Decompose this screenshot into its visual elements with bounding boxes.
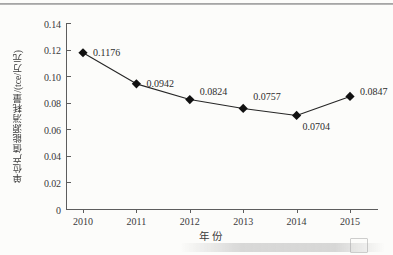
data-point-marker [132, 79, 141, 88]
x-tick-label: 2010 [73, 216, 93, 227]
scan-artifact-box [350, 238, 368, 253]
data-point-label: 0.0824 [200, 85, 228, 96]
x-tick-label: 2012 [180, 216, 200, 227]
y-tick-label: 0 [56, 204, 61, 215]
y-tick-label: 0.04 [44, 151, 61, 162]
plot-area: 00.020.040.060.080.100.120.14 2010201120… [66, 23, 378, 209]
x-tick-mark [350, 209, 351, 213]
page-rule-line [0, 3, 393, 5]
data-point-marker [292, 111, 301, 120]
data-point-label: 0.0847 [360, 86, 388, 97]
x-tick-label: 2013 [233, 216, 253, 227]
y-axis-title: 单位产值能源消耗量/(tce/万元) [13, 50, 27, 183]
y-tick-label: 0.08 [44, 98, 61, 109]
data-point-marker [239, 104, 248, 113]
data-point-label: 0.0757 [253, 91, 281, 102]
x-tick-mark [136, 209, 137, 213]
x-tick-mark [83, 209, 84, 213]
x-tick-label: 2014 [287, 216, 307, 227]
data-point-label: 0.0704 [303, 121, 331, 132]
x-tick-mark [297, 209, 298, 213]
chart-figure: 单位产值能源消耗量/(tce/万元) 00.020.040.060.080.10… [0, 0, 393, 255]
y-tick-mark [67, 209, 71, 210]
x-tick-mark [190, 209, 191, 213]
x-tick-label: 2011 [127, 216, 147, 227]
y-tick-label: 0.02 [44, 177, 61, 188]
x-axis-line [66, 209, 378, 210]
y-tick: 0 [66, 209, 71, 210]
y-tick-label: 0.12 [44, 45, 61, 56]
y-tick-label: 0.06 [44, 124, 61, 135]
x-axis-title: 年 份 [0, 228, 393, 243]
data-point-marker [185, 95, 194, 104]
y-tick-label: 0.14 [44, 18, 61, 29]
data-point-label: 0.0942 [146, 77, 174, 88]
data-point-marker [345, 92, 354, 101]
x-tick-mark [243, 209, 244, 213]
data-point-marker [78, 48, 87, 57]
x-tick-label: 2015 [340, 216, 360, 227]
y-tick-label: 0.10 [44, 71, 61, 82]
data-point-label: 0.1176 [93, 46, 120, 57]
